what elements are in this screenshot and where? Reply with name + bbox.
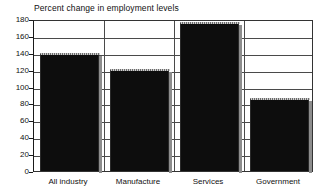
y-axis-tick-mark [29, 172, 33, 173]
bar-chart-figure: Percent change in employment levels 0204… [0, 0, 336, 195]
x-axis-tick-label: Services [173, 177, 243, 186]
y-axis-tick-mark [29, 88, 33, 89]
y-axis-tick-label: 140 [1, 50, 29, 58]
y-axis-tick-mark [29, 37, 33, 38]
y-axis-tick-label: 160 [1, 33, 29, 41]
y-axis-tick-mark [29, 104, 33, 105]
y-axis-tick-mark [29, 138, 33, 139]
y-axis-tick-label: 20 [1, 151, 29, 159]
y-axis-tick-label: 100 [1, 84, 29, 92]
y-axis-tick-label: 40 [1, 134, 29, 142]
y-axis-tick-label: 180 [1, 16, 29, 24]
y-axis-tick-mark [29, 54, 33, 55]
y-axis-tick-mark [29, 71, 33, 72]
x-axis-tick-label: All industry [33, 177, 103, 186]
y-axis-tick-mark [29, 155, 33, 156]
x-axis-tick-label: Manufacture [103, 177, 173, 186]
y-axis-tick-label: 0 [1, 168, 29, 176]
y-axis-tick-label: 120 [1, 67, 29, 75]
y-axis: 020406080100120140160180 [0, 0, 336, 195]
y-axis-tick-label: 80 [1, 100, 29, 108]
y-axis-tick-label: 60 [1, 117, 29, 125]
y-axis-tick-mark [29, 121, 33, 122]
y-axis-tick-mark [29, 20, 33, 21]
x-axis-tick-label: Government [243, 177, 313, 186]
